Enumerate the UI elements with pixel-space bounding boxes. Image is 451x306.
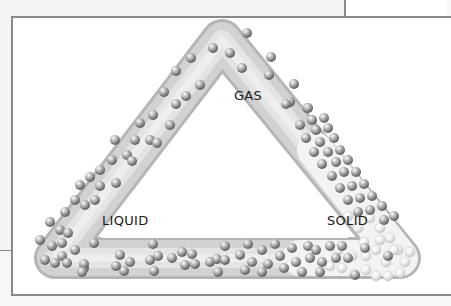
liquid-label: LIQUID xyxy=(102,213,148,228)
solid-label: SOLID xyxy=(327,213,368,228)
gas-label: GAS xyxy=(234,88,262,103)
